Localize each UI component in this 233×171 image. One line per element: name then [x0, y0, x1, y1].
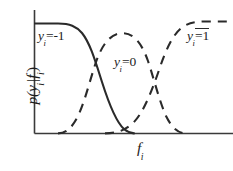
y-axis-title-sub2: i [35, 72, 46, 75]
curve-label-y-minus-1-value: =-1 [46, 28, 64, 43]
curve-label-y-plus-1-sub: i [192, 38, 194, 48]
curve-label-y-minus-1: yi=-1 [37, 29, 65, 43]
y-axis-title-suffix: ) [23, 67, 40, 72]
y-axis-title-mid: |f [23, 75, 40, 83]
curve-label-y-zero: yi=0 [113, 55, 137, 69]
curve-label-y-plus-1-value: =1 [195, 28, 209, 43]
likelihood-figure: yi=-1 yi=0 yi=1 fi p(yi|fi) [0, 0, 233, 171]
y-axis-title: p(yi|fi) [24, 38, 40, 134]
curve-y-plus-1 [105, 22, 233, 134]
y-axis-title-sub1: i [35, 83, 46, 86]
x-axis-title-sub: i [141, 151, 144, 162]
y-axis-title-prefix: p(y [23, 85, 40, 104]
curve-label-y-plus-1: yi=1 [186, 28, 210, 43]
curve-label-y-minus-1-sub: i [43, 38, 45, 48]
curve-label-y-zero-sub: i [119, 64, 121, 74]
x-axis-title: fi [137, 140, 144, 156]
curve-label-y-zero-value: =0 [122, 54, 136, 69]
